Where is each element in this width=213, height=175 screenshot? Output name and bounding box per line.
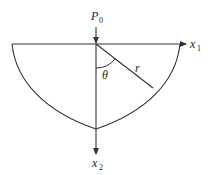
x1-axis-label: x 1 bbox=[189, 37, 201, 53]
svg-text:0: 0 bbox=[99, 16, 103, 25]
angle-label: θ bbox=[102, 68, 108, 82]
angle-arc bbox=[96, 59, 115, 68]
x2-axis-label: x 2 bbox=[91, 156, 103, 172]
svg-text:1: 1 bbox=[197, 44, 201, 53]
svg-text:x: x bbox=[91, 156, 98, 170]
half-space-diagram: P 0 x 1 x 2 θ r bbox=[0, 0, 213, 175]
svg-text:x: x bbox=[189, 37, 196, 51]
load-label: P 0 bbox=[90, 9, 103, 25]
radius-label: r bbox=[135, 61, 140, 75]
svg-text:2: 2 bbox=[99, 163, 103, 172]
svg-text:P: P bbox=[90, 9, 99, 23]
